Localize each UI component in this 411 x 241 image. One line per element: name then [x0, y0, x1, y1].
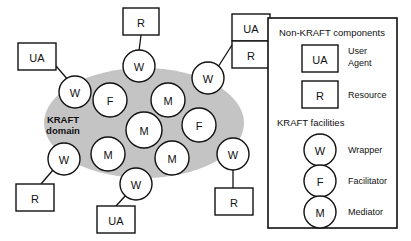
box-ua-left-label: UA [29, 52, 45, 64]
legend-f-desc: Facilitator [348, 176, 387, 186]
legend-panel: Non-KRAFT components UA User Agent R Res… [268, 18, 397, 228]
link-r-top-to-w [139, 35, 141, 51]
legend-ua-glyph: UA [312, 54, 328, 66]
node-w-bottomright[interactable]: W [217, 138, 249, 170]
node-w-top[interactable]: W [123, 50, 155, 82]
legend-w-desc: Wrapper [348, 145, 382, 155]
node-w-bottomleft[interactable]: W [48, 143, 80, 175]
node-m-upperright-label: M [163, 95, 172, 107]
node-m-lowerleft-label: M [103, 149, 112, 161]
legend-f-glyph: F [317, 176, 324, 188]
box-ua-topright[interactable]: UA [232, 14, 270, 41]
node-w-bottomright-label: W [228, 149, 239, 161]
link-w-to-r-bottomleft [41, 170, 53, 184]
node-m-center[interactable]: M [126, 112, 162, 148]
box-r-bottomright[interactable]: R [215, 188, 253, 215]
node-w-left[interactable]: W [59, 76, 91, 108]
legend-m-glyph: M [315, 207, 324, 219]
node-w-bottomleft-label: W [59, 154, 70, 166]
node-w-top-label: W [134, 61, 145, 73]
box-ua-topright-label: UA [243, 23, 259, 35]
node-m-lowerright[interactable]: M [155, 141, 189, 175]
node-f-upperleft-label: F [107, 95, 114, 107]
node-m-lowerright-label: M [167, 153, 176, 165]
node-w-left-label: W [70, 87, 81, 99]
legend-r-glyph: R [316, 90, 324, 102]
box-r-bottomright-label: R [230, 197, 238, 209]
legend-ua-desc-line2: Agent [348, 58, 372, 68]
legend-section-kraft-title: KRAFT facilities [277, 117, 345, 128]
box-ua-bottom[interactable]: UA [97, 206, 135, 233]
box-ua-left[interactable]: UA [18, 43, 56, 70]
box-r-bottomleft-label: R [31, 193, 39, 205]
link-uar-topright-to-w [218, 45, 232, 67]
legend-section-non-kraft-title: Non-KRAFT components [279, 27, 385, 38]
kraft-domain-label-line2: domain [46, 125, 80, 136]
node-m-upperright[interactable]: M [151, 83, 185, 117]
node-w-bottom-label: W [131, 179, 142, 191]
legend-ua-desc-line1: User [348, 46, 367, 56]
box-r-topright[interactable]: R [232, 41, 270, 68]
legend-item-user-agent: UA User Agent [302, 45, 372, 72]
node-w-topright[interactable]: W [192, 62, 224, 94]
kraft-domain-label-line1: KRAFT [47, 114, 79, 125]
box-r-top-label: R [137, 17, 145, 29]
box-r-bottomleft[interactable]: R [16, 184, 54, 211]
kraft-domain-label: KRAFT domain [46, 114, 80, 136]
node-f-upperleft[interactable]: F [93, 83, 127, 117]
node-f-right-label: F [196, 120, 203, 132]
kraft-architecture-diagram: R UA R UA R UA [0, 0, 411, 241]
legend-r-desc: Resource [348, 90, 387, 100]
legend-m-desc: Mediator [348, 207, 383, 217]
node-m-lowerleft[interactable]: M [91, 137, 125, 171]
box-ua-bottom-label: UA [108, 215, 124, 227]
node-w-topright-label: W [203, 73, 214, 85]
node-w-bottom[interactable]: W [120, 168, 152, 200]
node-m-center-label: M [139, 125, 148, 137]
node-f-right[interactable]: F [182, 108, 216, 142]
legend-w-glyph: W [315, 145, 326, 157]
box-r-top[interactable]: R [123, 8, 159, 35]
diagram-canvas: R UA R UA R UA [0, 0, 411, 241]
box-r-topright-label: R [247, 50, 255, 62]
